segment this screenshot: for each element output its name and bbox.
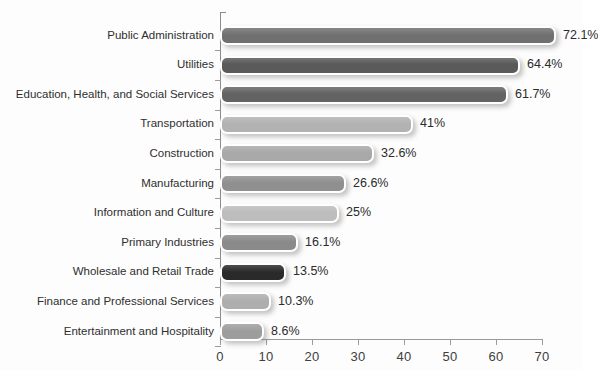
bar-value-label: 64.4% [527, 58, 562, 71]
category-label: Entertainment and Hospitality [64, 325, 214, 338]
bar-sheen [222, 176, 344, 183]
y-axis-tick [215, 258, 221, 259]
bar [220, 233, 298, 252]
bar-value-label: 8.6% [271, 325, 300, 338]
bar-row: 72.1% [220, 26, 580, 45]
bar-row: 26.6% [220, 174, 580, 193]
x-axis-tick-label: 30 [338, 349, 378, 364]
y-axis-tick [215, 346, 221, 347]
bar-sheen [222, 58, 518, 65]
bar-row: 61.7% [220, 85, 580, 104]
bar [220, 174, 346, 193]
bar-row: 16.1% [220, 233, 580, 252]
x-axis-tick-label: 10 [246, 349, 286, 364]
category-label: Education, Health, and Social Services [16, 88, 214, 101]
plot-area: 010203040506070 Public AdministrationUti… [0, 10, 583, 340]
bar [220, 115, 413, 134]
y-axis-tick [215, 169, 221, 170]
bar [220, 292, 271, 311]
bar-value-label: 26.6% [353, 177, 388, 190]
category-label: Primary Industries [121, 236, 214, 249]
bar [220, 204, 339, 223]
category-label: Public Administration [107, 29, 214, 42]
category-label: Information and Culture [94, 206, 214, 219]
y-axis-tick [215, 80, 221, 81]
bar-row: 25% [220, 204, 580, 223]
bar-value-label: 61.7% [515, 88, 550, 101]
category-label: Finance and Professional Services [37, 295, 214, 308]
y-axis-tick [215, 287, 221, 288]
y-axis-tick [215, 198, 221, 199]
bar-sheen [222, 87, 506, 94]
x-axis-tick-label: 70 [522, 349, 562, 364]
y-axis-tick [215, 110, 221, 111]
bar-row: 8.6% [220, 322, 580, 341]
x-axis-tick-label: 20 [292, 349, 332, 364]
bar-value-label: 41% [420, 117, 445, 130]
bar-value-label: 32.6% [381, 147, 416, 160]
category-label: Transportation [140, 117, 214, 130]
bar-value-label: 10.3% [278, 295, 313, 308]
bar-sheen [222, 294, 269, 301]
bar [220, 263, 286, 282]
bar-sheen [222, 324, 262, 331]
bar [220, 85, 508, 104]
chart-title-cutoff [150, 0, 450, 6]
bar [220, 322, 264, 341]
bar-value-label: 72.1% [563, 29, 598, 42]
bar [220, 26, 556, 45]
bar-row: 13.5% [220, 263, 580, 282]
bar [220, 56, 520, 75]
x-axis-tick-label: 60 [476, 349, 516, 364]
bar-value-label: 16.1% [305, 236, 340, 249]
bar-row: 10.3% [220, 292, 580, 311]
bar-row: 41% [220, 115, 580, 134]
y-axis-tick [215, 317, 221, 318]
y-axis-top-cap [220, 12, 226, 13]
bar-sheen [222, 28, 554, 35]
y-axis-tick [215, 228, 221, 229]
category-label: Utilities [177, 58, 214, 71]
y-axis-tick [215, 139, 221, 140]
bar-sheen [222, 117, 411, 124]
bar [220, 144, 374, 163]
category-label: Wholesale and Retail Trade [73, 265, 214, 278]
category-label: Manufacturing [141, 177, 214, 190]
x-axis-tick-label: 40 [384, 349, 424, 364]
x-axis-tick-label: 50 [430, 349, 470, 364]
bar-row: 64.4% [220, 56, 580, 75]
bar-row: 32.6% [220, 144, 580, 163]
x-axis-tick-label: 0 [200, 349, 240, 364]
category-label: Construction [149, 147, 214, 160]
bar-sheen [222, 235, 296, 242]
bar-sheen [222, 265, 284, 272]
bar-sheen [222, 146, 372, 153]
bar-sheen [222, 206, 337, 213]
y-axis-tick [215, 50, 221, 51]
bar-value-label: 13.5% [293, 265, 328, 278]
bar-value-label: 25% [346, 206, 371, 219]
